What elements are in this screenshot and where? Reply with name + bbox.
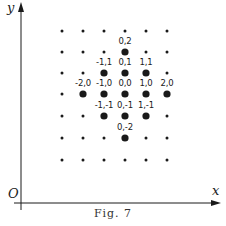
lattice-point — [61, 30, 64, 33]
highlighted-lattice-point — [121, 48, 128, 55]
point-label: 0,-2 — [117, 122, 133, 132]
y-axis-arrow-icon — [18, 2, 24, 12]
point-label: -1,0 — [96, 78, 112, 88]
lattice-point — [166, 51, 169, 54]
lattice-point — [103, 30, 106, 33]
x-axis-label: x — [212, 183, 219, 198]
highlighted-lattice-point — [142, 90, 149, 97]
highlighted-lattice-point — [163, 90, 170, 97]
lattice-diagram: y x O 0,2-1,10,11,1-2,0-1,00,01,02,0-1,-… — [0, 0, 226, 226]
lattice-point — [166, 115, 169, 118]
lattice-point — [82, 115, 85, 118]
lattice-point — [124, 30, 127, 33]
lattice-point — [103, 51, 106, 54]
lattice-point — [82, 30, 85, 33]
lattice-point — [124, 159, 127, 162]
lattice-point — [166, 30, 169, 33]
lattice-point — [61, 159, 64, 162]
highlighted-lattice-point — [79, 90, 86, 97]
point-label: 0,2 — [119, 36, 132, 46]
lattice-point — [103, 137, 106, 140]
lattice-point — [166, 72, 169, 75]
lattice-canvas — [0, 0, 226, 226]
lattice-point — [82, 72, 85, 75]
highlighted-lattice-point — [121, 90, 128, 97]
lattice-point — [82, 159, 85, 162]
origin-label: O — [8, 186, 19, 201]
figure-caption: Fig. 7 — [0, 207, 226, 220]
point-label: 2,0 — [161, 78, 174, 88]
lattice-point — [103, 159, 106, 162]
highlighted-lattice-point — [121, 69, 128, 76]
point-label: 1,-1 — [138, 100, 154, 110]
y-axis-label: y — [7, 0, 14, 15]
highlighted-lattice-point — [100, 90, 107, 97]
lattice-point — [61, 137, 64, 140]
lattice-point — [61, 93, 64, 96]
highlighted-lattice-point — [100, 69, 107, 76]
lattice-point — [145, 51, 148, 54]
highlighted-lattice-point — [121, 112, 128, 119]
lattice-point — [166, 137, 169, 140]
lattice-point — [61, 72, 64, 75]
lattice-point — [82, 51, 85, 54]
lattice-point — [61, 115, 64, 118]
point-label: 0,0 — [119, 78, 132, 88]
highlighted-lattice-point — [142, 69, 149, 76]
point-label: -2,0 — [75, 78, 91, 88]
point-label: 1,1 — [140, 57, 153, 67]
point-label: -1,1 — [96, 57, 112, 67]
lattice-point — [145, 159, 148, 162]
lattice-point — [145, 30, 148, 33]
lattice-point — [145, 137, 148, 140]
lattice-dots — [61, 30, 171, 162]
highlighted-lattice-point — [142, 112, 149, 119]
lattice-point — [166, 159, 169, 162]
highlighted-lattice-point — [100, 112, 107, 119]
highlighted-lattice-point — [121, 134, 128, 141]
point-label: 0,-1 — [117, 100, 133, 110]
lattice-point — [61, 51, 64, 54]
x-axis-arrow-icon — [211, 200, 221, 206]
point-label: 1,0 — [140, 78, 153, 88]
point-label: -1,-1 — [95, 100, 114, 110]
lattice-point — [82, 137, 85, 140]
point-label: 0,1 — [119, 57, 132, 67]
